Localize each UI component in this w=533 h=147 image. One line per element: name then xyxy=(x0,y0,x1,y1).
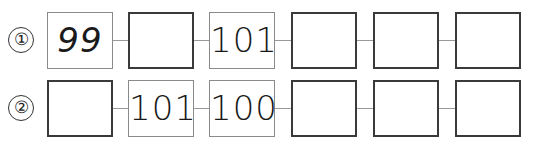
answer-box[interactable] xyxy=(455,80,521,137)
answer-box[interactable] xyxy=(47,80,113,137)
connector-line xyxy=(275,40,291,41)
connector-line xyxy=(194,108,210,109)
answer-box[interactable] xyxy=(291,80,357,137)
connector-line xyxy=(275,108,291,109)
problem-number-1: ① xyxy=(8,27,34,53)
number-box-given: 99 xyxy=(47,12,113,69)
connector-line xyxy=(113,40,129,41)
problem-number-2: ② xyxy=(8,95,34,121)
connector-line xyxy=(194,40,210,41)
number-box-given: 101 xyxy=(209,12,275,69)
connector-line xyxy=(439,108,455,109)
connector-line xyxy=(357,40,373,41)
answer-box[interactable] xyxy=(373,12,439,69)
problem-row-1: ① 99 101 xyxy=(0,12,533,70)
connector-line xyxy=(439,40,455,41)
answer-box[interactable] xyxy=(455,12,521,69)
answer-box[interactable] xyxy=(128,12,194,69)
answer-box[interactable] xyxy=(373,80,439,137)
connector-line xyxy=(113,108,129,109)
connector-line xyxy=(357,108,373,109)
problem-row-2: ② 101 100 xyxy=(0,80,533,138)
answer-box[interactable] xyxy=(291,12,357,69)
number-box-given: 100 xyxy=(209,80,275,137)
number-box-given: 101 xyxy=(128,80,194,137)
